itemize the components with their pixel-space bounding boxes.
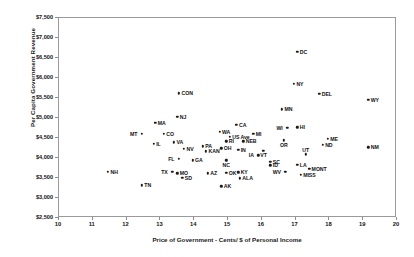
data-point-label: TN: [144, 182, 151, 188]
data-point-marker: [141, 132, 143, 134]
data-point-marker: [173, 141, 175, 143]
x-axis-title: Price of Government - Cents/ $ of Person…: [58, 236, 396, 243]
data-point-marker: [207, 172, 209, 174]
data-point-marker: [367, 146, 369, 148]
data-point-marker: [308, 168, 310, 170]
data-point-marker: [296, 51, 298, 53]
data-point-label: CON: [181, 90, 192, 96]
y-tick-label: $2,500: [19, 214, 53, 220]
data-point-marker: [237, 149, 239, 151]
data-point-label: GA: [195, 157, 203, 163]
data-point-label: DEL: [322, 91, 332, 97]
data-point-label: NY: [296, 81, 303, 87]
x-tick-mark: [362, 217, 363, 220]
data-point-label: RI: [229, 138, 234, 144]
data-point-marker: [141, 184, 143, 186]
data-point-label: NC: [223, 162, 230, 168]
data-point-label: WV: [273, 169, 281, 175]
x-tick-mark: [193, 217, 194, 220]
data-point-label: NM: [371, 144, 379, 150]
data-point-label: MI: [256, 131, 262, 137]
y-tick-label: $3,000: [19, 194, 53, 200]
data-point-marker: [296, 164, 298, 166]
data-point-label: WA: [222, 129, 230, 135]
data-point-marker: [293, 83, 295, 85]
y-tick-label: $3,500: [19, 174, 53, 180]
x-tick-label: 14: [181, 221, 205, 227]
data-point-marker: [154, 122, 156, 124]
data-point-marker: [178, 158, 180, 160]
data-point-label: UT: [302, 147, 309, 153]
x-tick-mark: [328, 217, 329, 220]
data-point-label: NH: [111, 169, 118, 175]
x-tick-label: 11: [80, 221, 104, 227]
x-tick-label: 16: [249, 221, 273, 227]
data-point-marker: [107, 171, 109, 173]
data-point-marker: [286, 126, 288, 128]
x-tick-mark: [295, 217, 296, 220]
data-point-label: VT: [260, 152, 267, 158]
x-tick-label: 19: [350, 221, 374, 227]
data-point-marker: [163, 133, 165, 135]
data-point-marker: [242, 140, 244, 142]
data-point-label: MISS: [303, 172, 315, 178]
y-tick-label: $7,500: [19, 14, 53, 20]
data-point-marker: [327, 138, 329, 140]
data-point-label: WY: [371, 97, 379, 103]
x-tick-mark: [396, 217, 397, 220]
data-point-marker: [284, 171, 286, 173]
data-point-marker: [252, 132, 254, 134]
data-point-label: NJ: [180, 114, 187, 120]
data-point-marker: [367, 99, 369, 101]
data-point-label: OK: [229, 170, 237, 176]
data-point-label: ID: [273, 162, 278, 168]
data-point-marker: [205, 150, 207, 152]
data-point-label: MA: [158, 120, 166, 126]
data-point-label: ALA: [242, 175, 253, 181]
data-point-label: IL: [156, 141, 161, 147]
data-point-marker: [176, 116, 178, 118]
x-tick-label: 18: [316, 221, 340, 227]
data-point-label: MT: [130, 131, 137, 137]
scatter-chart: Per Capita Government Revenue Price of G…: [0, 0, 414, 257]
data-point-marker: [220, 147, 222, 149]
data-point-label: ND: [325, 142, 332, 148]
data-point-marker: [225, 172, 227, 174]
data-point-marker: [281, 108, 283, 110]
data-point-marker: [220, 185, 222, 187]
data-point-label: NEB: [246, 138, 257, 144]
data-point-label: KAN: [209, 148, 220, 154]
data-point-marker: [178, 92, 180, 94]
data-point-label: LA: [300, 162, 307, 168]
data-point-marker: [235, 124, 237, 126]
data-point-label: CO: [166, 131, 174, 137]
y-tick-label: $6,500: [19, 54, 53, 60]
data-point-marker: [296, 126, 298, 128]
data-point-label: HI: [300, 124, 305, 130]
x-tick-label: 13: [147, 221, 171, 227]
data-point-marker: [225, 140, 227, 142]
data-point-marker: [269, 161, 271, 163]
x-tick-mark: [126, 217, 127, 220]
data-point-label: IA: [249, 152, 254, 158]
data-point-label: AK: [224, 183, 231, 189]
data-point-marker: [321, 144, 323, 146]
y-tick-label: $6,000: [19, 74, 53, 80]
x-tick-label: 20: [384, 221, 408, 227]
data-point-marker: [183, 148, 185, 150]
data-point-label: DC: [300, 49, 307, 55]
data-point-marker: [176, 172, 178, 174]
x-tick-mark: [58, 217, 59, 220]
x-tick-mark: [227, 217, 228, 220]
data-point-label: NV: [187, 146, 194, 152]
y-tick-label: $4,500: [19, 134, 53, 140]
data-point-marker: [318, 93, 320, 95]
data-point-marker: [181, 176, 183, 178]
x-tick-mark: [92, 217, 93, 220]
data-point-label: WI: [276, 125, 282, 131]
data-point-label: MN: [285, 106, 293, 112]
y-tick-label: $7,000: [19, 34, 53, 40]
x-tick-mark: [159, 217, 160, 220]
data-point-label: OR: [280, 142, 288, 148]
data-point-marker: [191, 159, 193, 161]
